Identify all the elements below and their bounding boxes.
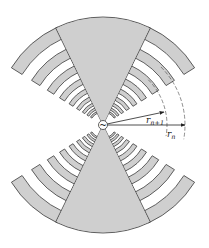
- antenna-arm-bottom: [11, 125, 194, 233]
- antenna-arm-top: [11, 17, 194, 125]
- r-n-label: rn: [167, 129, 176, 141]
- antenna-diagram: ~ rn rn+1: [0, 0, 209, 248]
- feed-source-symbol: ~: [99, 120, 107, 130]
